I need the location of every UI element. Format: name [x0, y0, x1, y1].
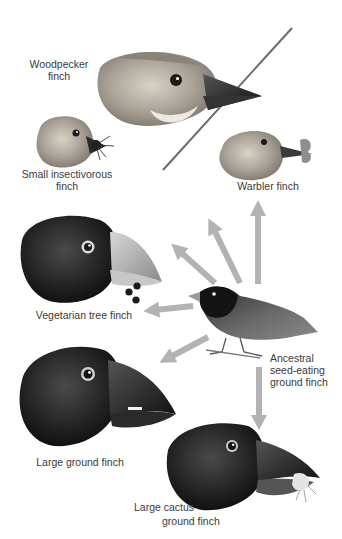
label-large-cactus-ground-finch: Large cactus ground finch	[134, 500, 220, 528]
label-line: Vegetarian tree finch	[26, 309, 142, 321]
warbler-finch-illustration	[219, 131, 312, 180]
finch-radiation-diagram: Woodpecker finch Small insectivorous fin…	[0, 0, 342, 539]
label-ancestral-finch: Ancestral seed-eating ground finch	[270, 352, 328, 388]
arrow-to-large-cactus-ground	[251, 367, 267, 430]
label-line: finch	[24, 70, 94, 82]
label-line: Small insectivorous	[14, 168, 120, 180]
vegetarian-tree-finch-illustration	[21, 216, 162, 304]
label-line: Ancestral	[270, 352, 328, 364]
label-line: finch	[14, 180, 120, 192]
large-ground-finch-illustration	[20, 347, 176, 446]
label-woodpecker-finch: Woodpecker finch	[24, 58, 94, 82]
arrow-to-warbler	[250, 200, 266, 284]
large-cactus-ground-finch-illustration	[167, 423, 320, 510]
arrow-to-small-insectivorous	[166, 238, 221, 289]
label-line: Woodpecker	[24, 58, 94, 70]
label-line: seed-eating	[270, 364, 328, 376]
label-line: Large cactus	[134, 500, 220, 514]
label-line: Warbler finch	[218, 180, 318, 192]
arrow-to-large-ground	[156, 330, 212, 370]
ancestral-finch-illustration	[188, 286, 318, 358]
label-line: ground finch	[270, 376, 328, 388]
small-insectivorous-finch-illustration	[37, 116, 115, 167]
label-line: Large ground finch	[30, 456, 130, 468]
label-warbler-finch: Warbler finch	[218, 180, 318, 192]
label-small-insectivorous-finch: Small insectivorous finch	[14, 168, 120, 192]
label-vegetarian-tree-finch: Vegetarian tree finch	[26, 309, 142, 321]
label-large-ground-finch: Large ground finch	[30, 456, 130, 468]
label-line: ground finch	[134, 514, 220, 528]
arrow-to-vegetarian-tree	[142, 298, 193, 319]
